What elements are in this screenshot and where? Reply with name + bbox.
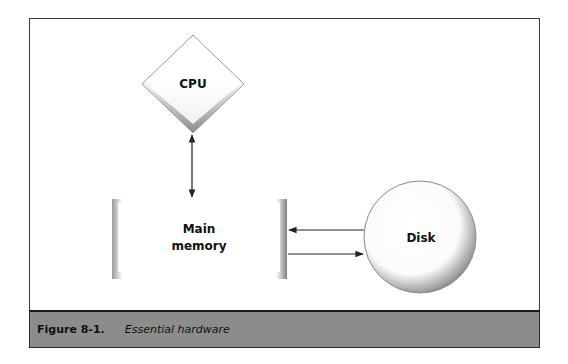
cpu-node: CPU (142, 35, 244, 133)
caption-text: Essential hardware (125, 323, 230, 336)
main-memory-label-line2: memory (171, 239, 226, 253)
figure-caption: Figure 8-1. Essential hardware (29, 310, 540, 348)
caption-label: Figure 8-1. (37, 323, 105, 336)
main-memory-label-line1: Main (183, 222, 216, 236)
main-memory-node: Main memory (112, 199, 287, 279)
disk-label: Disk (406, 231, 436, 245)
disk-node: Disk (364, 181, 476, 293)
cpu-label: CPU (179, 77, 206, 91)
